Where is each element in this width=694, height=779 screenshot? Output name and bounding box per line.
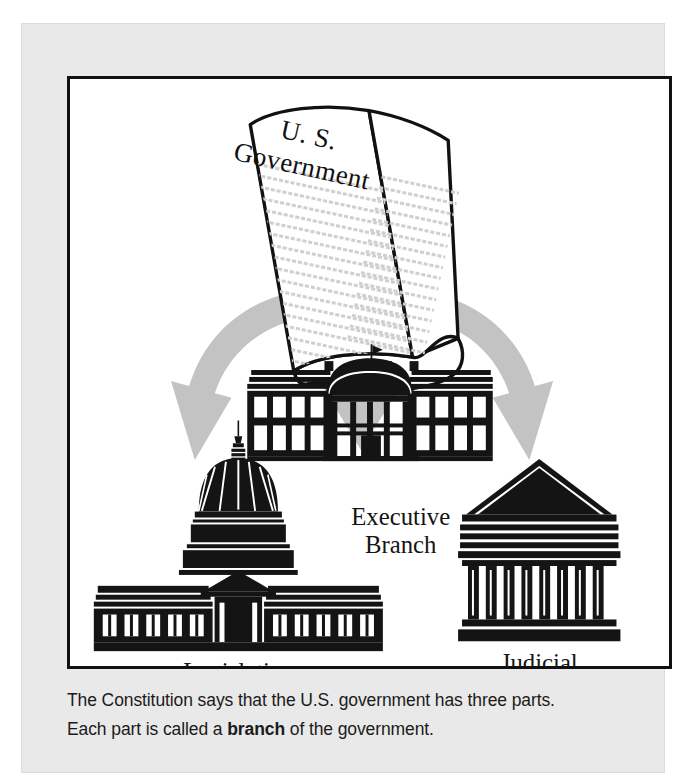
content-panel: U. S. Government xyxy=(22,24,664,772)
three-branches-diagram: U. S. Government xyxy=(70,79,669,666)
caption-line-2: Each part is called a branch of the gove… xyxy=(67,715,672,744)
legislative-label-line1: Legislative xyxy=(183,658,293,666)
caption-line-2-after: of the government. xyxy=(285,719,434,739)
caption-line-2-before: Each part is called a xyxy=(67,719,227,739)
executive-label-line2: Branch xyxy=(365,531,437,558)
caption-block: The Constitution says that the U.S. gove… xyxy=(67,686,672,744)
branch-label-judicial: Judicial Branch xyxy=(501,649,578,666)
caption-line-1: The Constitution says that the U.S. gove… xyxy=(67,686,672,715)
judicial-label-line1: Judicial xyxy=(501,649,578,666)
branch-label-executive: Executive Branch xyxy=(351,503,450,558)
illustration-frame: U. S. Government xyxy=(67,76,672,669)
supreme-court-building-icon xyxy=(458,459,620,641)
executive-label-line1: Executive xyxy=(351,503,450,530)
caption-keyword-branch: branch xyxy=(227,719,285,739)
branch-label-legislative: Legislative Branch xyxy=(183,658,293,666)
capitol-building-icon xyxy=(94,421,383,652)
